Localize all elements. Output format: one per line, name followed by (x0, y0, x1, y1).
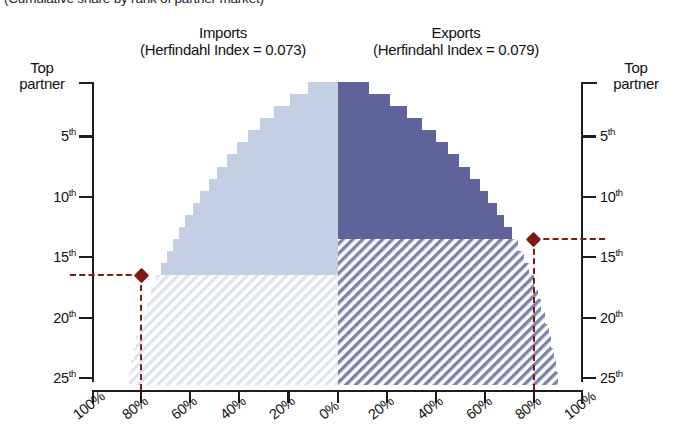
exports-bar-rank-7 (338, 154, 460, 167)
x-tick-label-10: 100% (561, 388, 599, 422)
imports-title-text: Imports (108, 24, 338, 41)
exports-bar-rank-1 (338, 82, 370, 95)
exports-bar-rank-11 (338, 203, 498, 216)
imports-bar-rank-3 (274, 106, 338, 119)
imports-bar-rank-24 (131, 360, 337, 373)
imports-bar-rank-18 (151, 287, 338, 300)
exports-solid-area (338, 82, 512, 240)
exports-bar-rank-21 (338, 324, 549, 337)
imports-bar-rank-11 (193, 203, 338, 216)
y-tick-left-10 (79, 196, 92, 198)
exports-title-text: Exports (336, 24, 576, 41)
exports-bar-rank-6 (338, 142, 448, 155)
exports-panel-title: Exports (Herfindahl Index = 0.079) (336, 24, 576, 58)
staircase-svg (92, 82, 583, 390)
y-axis-right-top-line1: Top (600, 60, 672, 76)
exports-bar-rank-12 (338, 215, 505, 228)
y-axis-right-top-line2: partner (600, 76, 672, 92)
y-tick-label-right-25: 25th (600, 368, 660, 386)
imports-bar-rank-6 (237, 142, 338, 155)
x-tick-label-8: 60% (463, 393, 495, 423)
exports-bar-rank-15 (338, 251, 525, 264)
imports-bar-rank-16 (161, 263, 338, 276)
imports-bar-rank-10 (200, 191, 337, 204)
exports-bar-rank-3 (338, 106, 408, 119)
y-tick-right-25 (583, 377, 596, 379)
imports-bar-rank-19 (147, 299, 337, 312)
imports-bar-rank-2 (290, 94, 338, 107)
imports-bar-rank-22 (136, 336, 337, 349)
imports-bar-rank-15 (167, 251, 338, 264)
y-tick-right-15 (583, 256, 596, 258)
imports-leader-vertical (140, 275, 142, 390)
exports-bar-rank-18 (338, 287, 538, 300)
x-tick-label-2: 60% (168, 393, 200, 423)
plot-area (92, 82, 583, 390)
imports-bar-rank-20 (144, 311, 338, 324)
x-tick-label-7: 40% (414, 393, 446, 423)
imports-leader-horizontal (70, 274, 141, 276)
exports-leader-vertical (533, 239, 535, 390)
y-tick-label-left-5: 5th (18, 126, 76, 144)
exports-bar-rank-14 (338, 239, 518, 252)
y-tick-label-left-20: 20th (18, 308, 76, 326)
imports-hatched-area (129, 275, 338, 384)
exports-bar-rank-19 (338, 299, 542, 312)
exports-bar-rank-10 (338, 191, 489, 204)
clipped-edge-glyph (0, 368, 3, 391)
y-tick-label-right-10: 10th (600, 187, 660, 205)
x-tick-label-3: 40% (217, 393, 249, 423)
y-tick-right-20 (583, 317, 596, 319)
exports-bar-rank-24 (338, 360, 557, 373)
imports-bar-rank-23 (134, 348, 338, 361)
y-axis-left-top-line1: Top (6, 60, 78, 76)
exports-hatched-area (338, 239, 559, 385)
x-tick-5 (337, 390, 339, 403)
exports-bar-rank-8 (338, 167, 471, 180)
y-tick-label-left-25: 25th (18, 368, 76, 386)
imports-bar-rank-1 (308, 82, 337, 95)
y-tick-label-right-5: 5th (600, 126, 660, 144)
imports-bar-rank-13 (179, 227, 337, 240)
y-tick-label-right-20: 20th (600, 308, 660, 326)
x-tick-label-9: 80% (512, 393, 544, 423)
y-tick-label-left-15: 15th (18, 247, 76, 265)
exports-bar-rank-23 (338, 348, 554, 361)
exports-bar-rank-20 (338, 311, 545, 324)
exports-bar-rank-22 (338, 336, 552, 349)
exports-bar-rank-5 (338, 130, 436, 143)
imports-bar-rank-4 (260, 118, 337, 131)
x-tick-label-6: 20% (365, 393, 397, 423)
x-tick-label-4: 20% (266, 393, 298, 423)
y-tick-left-5 (79, 135, 92, 137)
imports-herfindahl-text: (Herfindahl Index = 0.073) (108, 41, 338, 58)
y-axis-right-top-label: Top partner (600, 60, 672, 92)
imports-bar-rank-25 (129, 372, 338, 385)
imports-bar-rank-21 (140, 324, 338, 337)
chart-figure: (Cumulative share by rank of partner mar… (0, 0, 676, 448)
exports-bar-rank-4 (338, 118, 423, 131)
imports-panel-title: Imports (Herfindahl Index = 0.073) (108, 24, 338, 58)
exports-bar-rank-17 (338, 275, 534, 288)
exports-herfindahl-text: (Herfindahl Index = 0.079) (336, 41, 576, 58)
y-tick-left-15 (79, 256, 92, 258)
y-axis-left-top-cap (79, 82, 93, 84)
x-tick-label-0: 100% (70, 388, 108, 422)
exports-bar-rank-9 (338, 179, 480, 192)
imports-bar-rank-17 (156, 275, 338, 288)
exports-bar-rank-25 (338, 372, 559, 385)
imports-bar-rank-8 (217, 167, 337, 180)
y-tick-left-25 (79, 377, 92, 379)
exports-bar-rank-16 (338, 263, 529, 276)
exports-leader-horizontal (534, 238, 605, 240)
imports-solid-area (161, 82, 338, 276)
imports-bar-rank-7 (227, 154, 337, 167)
imports-bar-rank-9 (209, 179, 338, 192)
y-tick-right-10 (583, 196, 596, 198)
x-tick-label-1: 80% (119, 393, 151, 423)
y-axis-left-top-label: Top partner (6, 60, 78, 92)
y-axis-right-top-cap (583, 82, 597, 84)
exports-bar-rank-13 (338, 227, 512, 240)
exports-bar-rank-2 (338, 94, 391, 107)
y-axis-left-top-line2: partner (6, 76, 78, 92)
